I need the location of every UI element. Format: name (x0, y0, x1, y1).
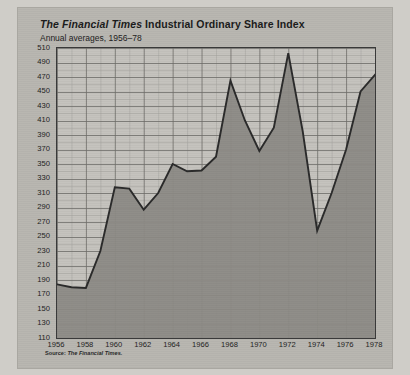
y-tick-label: 390 (18, 130, 50, 139)
y-tick-label: 350 (18, 159, 50, 168)
chart-subtitle: Annual averages, 1956–78 (40, 33, 142, 43)
y-tick-label: 510 (18, 43, 50, 52)
x-tick-label: 1978 (357, 340, 391, 349)
chart-title: The Financial Times Industrial Ordinary … (40, 18, 305, 30)
y-tick-label: 490 (18, 57, 50, 66)
y-tick-label: 270 (18, 217, 50, 226)
y-tick-label: 290 (18, 202, 50, 211)
chart-figure: The Financial Times Industrial Ordinary … (18, 8, 392, 368)
y-tick-label: 190 (18, 275, 50, 284)
y-tick-label: 370 (18, 144, 50, 153)
y-tick-label: 230 (18, 246, 50, 255)
y-tick-label: 450 (18, 86, 50, 95)
y-tick-label: 310 (18, 188, 50, 197)
series-area (57, 53, 375, 338)
chart-svg (57, 48, 375, 338)
y-tick-label: 130 (18, 318, 50, 327)
y-tick-label: 150 (18, 304, 50, 313)
y-tick-label: 330 (18, 173, 50, 182)
y-tick-label: 250 (18, 231, 50, 240)
y-tick-label: 210 (18, 260, 50, 269)
source-publication: The Financial Times. (67, 350, 122, 356)
chart-title-italic: The Financial Times (40, 18, 142, 30)
source-note: Source: The Financial Times. (45, 350, 122, 356)
y-tick-label: 470 (18, 72, 50, 81)
y-tick-label: 170 (18, 289, 50, 298)
chart-title-rest: Industrial Ordinary Share Index (142, 18, 305, 30)
y-tick-label: 410 (18, 115, 50, 124)
source-label: Source: (45, 350, 67, 356)
plot-area (56, 47, 376, 339)
y-tick-label: 430 (18, 101, 50, 110)
